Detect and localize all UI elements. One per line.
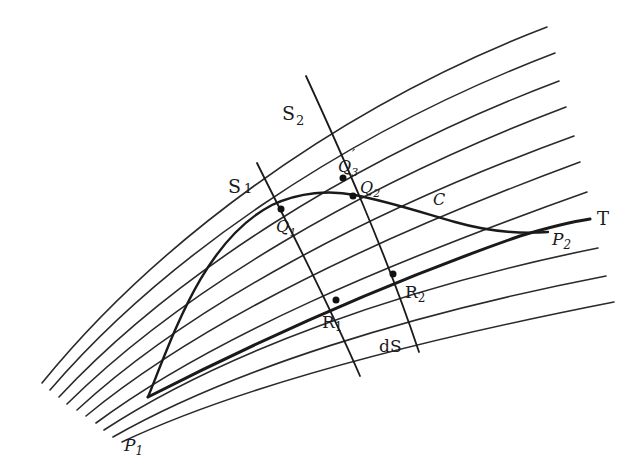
label-Q3-prime-mark: ′ [352, 147, 356, 163]
label-R1: R1 [322, 312, 342, 334]
label-C: C [433, 190, 445, 209]
point-Q2 [350, 193, 357, 200]
label-P1: P1 [123, 435, 143, 458]
family-curve-9 [113, 276, 606, 437]
label-S1: S1 [228, 175, 252, 197]
point-R2 [390, 271, 397, 278]
label-dS: dS [379, 336, 402, 356]
curve-family [42, 27, 614, 442]
label-T: T [597, 208, 609, 229]
family-curve-2 [50, 53, 555, 390]
label-Q1: Q1 [276, 217, 296, 239]
label-S2: S2 [282, 102, 304, 128]
family-curve-4 [67, 107, 566, 404]
point-R1 [333, 297, 340, 304]
point-Q1 [278, 206, 285, 213]
family-curve-3 [59, 81, 559, 397]
diagram: S1 S2 Q1 Q2 Q3 ′ C T P1 P2 R1 R2 dS [0, 0, 641, 461]
label-R2: R2 [405, 282, 425, 305]
family-curve-6 [86, 162, 580, 416]
label-P2: P2 [551, 229, 571, 252]
label-Q2: Q2 [360, 178, 380, 200]
family-curve-7 [96, 192, 587, 423]
